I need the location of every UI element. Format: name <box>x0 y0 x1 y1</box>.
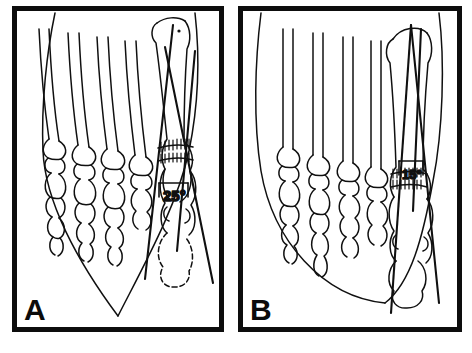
ray-3-joint-2 <box>79 203 91 205</box>
ray-4-head-medial <box>101 149 109 183</box>
ray-3-phalanx-medial <box>74 179 81 223</box>
ray-2-phalanx-medial <box>279 181 286 225</box>
ray-3-distal-lateral <box>88 224 94 262</box>
hallux-distal-phalanx <box>158 233 192 287</box>
angle-label-a: 25° <box>163 187 186 204</box>
panel-b-drawing: 15° <box>243 11 457 327</box>
ray-2-distal-medial <box>282 225 289 263</box>
ray-3-shaft-lateral <box>79 33 89 147</box>
ray-2-head-lateral <box>293 149 300 182</box>
ray-4-phalanx-medial <box>103 183 110 227</box>
ray-5-phalanx-medial <box>131 189 138 229</box>
panel-a-artwork: 25° <box>17 11 219 327</box>
ray-3-head-medial <box>307 155 315 189</box>
soft-tissue-medial-outline <box>256 13 385 303</box>
ray-5-shaft-medial <box>125 41 135 155</box>
ray-2-joint-3 <box>53 237 60 239</box>
ray-2-joint-1 <box>48 158 61 160</box>
ray-3-phalanx-medial <box>309 189 316 233</box>
ray-2-shaft-lateral <box>49 29 59 141</box>
first-metatarsal-base-marking <box>177 29 180 32</box>
ray-5-shaft-lateral <box>136 41 146 157</box>
ray-4-head-lateral <box>353 163 360 196</box>
ray-3-head-lateral <box>89 147 96 180</box>
ray-3-joint-1 <box>312 174 325 176</box>
ray-4-joint-1 <box>342 180 355 182</box>
ray-5-head-lateral <box>381 169 388 202</box>
ray-5-joint-1 <box>134 174 148 176</box>
ray-4-distal-medial <box>106 227 113 265</box>
ray-4-phalanx-lateral <box>353 196 360 238</box>
sesamoid-lateral <box>185 209 190 223</box>
ray-3-head-lateral <box>323 157 330 190</box>
ray-3-phalanx-lateral <box>89 180 96 224</box>
ray-2-distal-medial <box>48 217 55 255</box>
ray-4-phalanx-lateral <box>118 184 125 228</box>
ray-4-joint-2 <box>108 207 120 209</box>
ray-3-joint-1 <box>77 164 91 166</box>
measurement-lines-a <box>145 25 213 283</box>
ray-5-head-medial <box>129 155 137 189</box>
ray-4-joint-1 <box>106 168 120 170</box>
second-metatarsal-axis-line <box>165 47 213 283</box>
ray-4-head-lateral <box>118 151 125 184</box>
ray-2-joint-1 <box>282 166 295 168</box>
ray-4-distal-medial <box>342 237 347 257</box>
ray-5-joint-1 <box>370 186 383 188</box>
ray-3-distal-lateral <box>322 234 328 277</box>
sesamoid-lateral <box>423 237 428 251</box>
first-metatarsal-base <box>157 18 185 23</box>
ray-5-phalanx-medial <box>367 201 374 245</box>
ray-2-head-lateral <box>59 141 66 174</box>
ray-3-phalanx-lateral <box>323 190 330 234</box>
ray-3-shaft-medial <box>68 33 78 145</box>
reference-axis-line <box>177 51 195 251</box>
panel-a: 25° A <box>12 6 224 332</box>
ray-2-joint-2 <box>284 205 295 207</box>
ray-2-distal-lateral <box>58 218 64 256</box>
panel-a-drawing: 25° <box>17 11 219 327</box>
ray-2-phalanx-lateral <box>59 174 66 218</box>
panel-a-label: A <box>24 295 46 325</box>
angle-label-b: 15° <box>402 167 422 182</box>
caption-strip <box>0 340 472 353</box>
ray-2-head-medial <box>277 147 285 181</box>
panel-b-artwork: 15° <box>243 11 457 327</box>
figure-container: 25° A <box>0 0 472 353</box>
ray-3-head-medial <box>72 145 80 179</box>
ray-5-phalanx-lateral <box>381 202 388 246</box>
ray-2-joint-2 <box>50 197 61 199</box>
panel-b: 15° B <box>238 6 462 332</box>
ray-4-head-medial <box>337 161 345 195</box>
ray-4-distal-lateral <box>353 238 358 258</box>
ray-4-shaft-medial <box>97 37 107 149</box>
ray-4-distal-lateral <box>117 228 123 266</box>
ray-2-phalanx-lateral <box>293 182 300 226</box>
ray-2-distal-lateral <box>292 226 298 264</box>
ray-4-phalanx-medial <box>339 195 346 237</box>
ray-5-head-lateral <box>146 157 153 190</box>
panel-b-label: B <box>250 295 272 325</box>
ray-5-head-medial <box>365 167 373 201</box>
ray-3-joint-2 <box>314 213 325 215</box>
ray-4-shaft-lateral <box>108 37 118 151</box>
